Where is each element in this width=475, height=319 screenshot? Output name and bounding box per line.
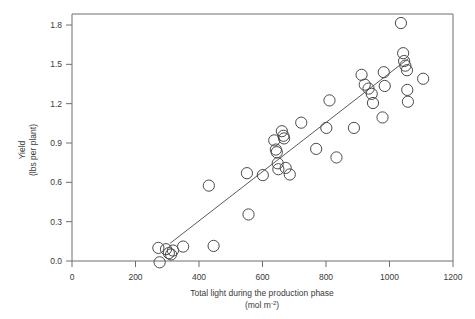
scatter-plot-figure: 0.00.30.60.91.21.51.8 020040060080010001…: [0, 0, 475, 319]
y-tick-label: 1.5: [50, 59, 62, 69]
x-tick-label: 800: [319, 272, 333, 282]
x-axis-units-base: (mol m: [245, 300, 271, 310]
y-axis-title-line1: Yield: [17, 140, 27, 159]
y-axis-title-line2: (lbs per plant): [28, 124, 38, 176]
y-tick-label: 1.8: [50, 20, 62, 30]
y-tick-label: 0.6: [50, 177, 62, 187]
x-axis-title-main: Total light during the production phase: [190, 288, 334, 298]
x-tick-label: 1200: [444, 272, 463, 282]
x-tick-label: 400: [192, 272, 206, 282]
y-tick-label: 1.2: [50, 99, 62, 109]
x-tick-label: 200: [128, 272, 142, 282]
x-tick-label: 600: [255, 272, 269, 282]
x-axis-units-close: ): [276, 300, 279, 310]
y-tick-label: 0.3: [50, 217, 62, 227]
y-tick-label: 0.9: [50, 138, 62, 148]
x-tick-label: 1000: [380, 272, 399, 282]
y-tick-label: 0.0: [50, 256, 62, 266]
x-tick-label: 0: [70, 272, 75, 282]
